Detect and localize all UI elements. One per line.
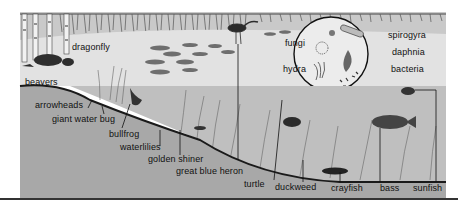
golden-shiner-figure bbox=[194, 126, 206, 130]
sunfish-figure bbox=[401, 87, 415, 95]
label-spirogyra: spirogyra bbox=[388, 31, 426, 40]
label-giant-water-bug: giant water bug bbox=[52, 115, 115, 124]
label-bass: bass bbox=[380, 184, 399, 193]
turtle-figure bbox=[283, 117, 301, 127]
bottom-rule bbox=[0, 198, 458, 200]
label-daphnia: daphnia bbox=[392, 48, 425, 57]
label-turtle: turtle bbox=[244, 180, 265, 189]
label-bacteria: bacteria bbox=[391, 65, 424, 74]
label-bullfrog: bullfrog bbox=[109, 130, 139, 139]
label-crayfish: crayfish bbox=[331, 184, 363, 193]
label-fungi: fungi bbox=[285, 39, 305, 48]
label-beavers: beavers bbox=[25, 78, 58, 87]
label-sunfish: sunfish bbox=[413, 184, 442, 193]
crayfish-figure bbox=[322, 168, 348, 175]
marsh-flats bbox=[20, 30, 446, 86]
label-arrowheads: arrowheads bbox=[35, 101, 83, 110]
microorganism-inset bbox=[294, 17, 368, 91]
label-golden-shiner: golden shiner bbox=[148, 155, 203, 164]
label-waterlilies: waterlilies bbox=[120, 143, 161, 152]
label-duckweed: duckweed bbox=[275, 183, 316, 192]
label-great-blue-heron: great blue heron bbox=[176, 167, 243, 176]
label-hydra: hydra bbox=[283, 65, 306, 74]
label-dragonfly: dragonfly bbox=[72, 43, 110, 52]
